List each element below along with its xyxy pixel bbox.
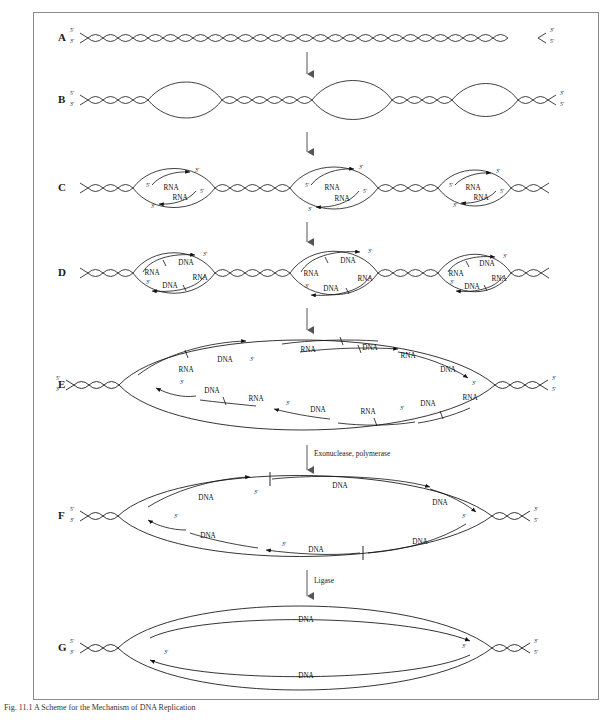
row-e-dna-bot-2: DNA [310,406,326,414]
row-a-left-3prime: 3' [69,38,75,44]
row-e-3prime-bot-3: 3' [399,405,405,411]
row-g-dna-top: DNA [298,616,314,624]
row-e-dna-top-2: DNA [362,344,378,352]
row-f-3prime-top-2: 3' [461,513,467,519]
row-label-c: C [58,181,66,193]
row-c-3prime-1a: 3' [194,167,200,173]
row-c-5prime-1a: 5' [146,182,151,188]
row-e-dna-top-3: DNA [440,366,456,374]
row-a-right-3prime: 3' [549,27,555,33]
row-d-3prime-1a: 3' [202,251,208,257]
row-d-rna-label-2b: RNA [357,275,373,283]
row-a-right-5prime: 5' [550,38,555,44]
row-f-3prime-bot-1: 3' [173,513,179,519]
row-d-3prime-3b: 3' [449,279,455,285]
row-e-dna-bot-3: DNA [420,400,436,408]
row-label-d: D [58,266,66,278]
row-c-5prime-1b: 5' [200,188,205,194]
row-c-rna-label-2b: RNA [334,195,350,203]
row-b-right-3prime: 3' [559,90,565,96]
row-e-right-5prime: 5' [552,386,557,392]
row-g-right-5prime: 5' [534,649,539,655]
row-e-dna-bot-1: DNA [204,387,220,395]
row-label-b: B [58,93,66,105]
row-f-dna-bot-2: DNA [308,546,324,554]
row-f-right-3prime: 3' [533,506,539,512]
row-g-3prime-bot: 3' [163,649,169,655]
row-label-g: G [58,641,67,653]
row-d-3prime-1b: 3' [145,279,151,285]
dna-replication-diagram: 5' 3' 3' 5' 5' 3' 3' 5' [0,0,614,720]
row-e-3prime-top-1: 3' [249,356,255,362]
row-b-bubbles [80,81,556,120]
row-c-3prime-3a: 3' [495,168,501,174]
row-g-left-3prime: 3' [69,649,75,655]
row-e-rna-bot-1: RNA [248,395,264,403]
row-d-3prime-2b: 3' [304,283,310,289]
row-f-dna-top-2: DNA [332,482,348,490]
row-label-a: A [58,31,66,43]
row-d-rna-label-1a: RNA [144,269,160,277]
row-g-3prime-top: 3' [461,643,467,649]
row-f-top-fragments [148,472,476,512]
row-d-3prime-2a: 3' [367,248,373,254]
row-c-5prime-2a: 5' [305,182,310,188]
row-g-left-5prime: 5' [70,638,75,644]
row-d-dna-label-3a: DNA [479,260,495,268]
row-c-5prime-3b: 5' [500,188,505,194]
transition-label-ligase: Ligase [314,576,334,585]
figure-caption: Fig. 11.1 A Scheme for the Mechanism of … [4,703,610,712]
row-e-rna-top-3: RNA [400,352,416,360]
row-c-rna-label-3b: RNA [473,194,489,202]
row-c-3prime-2b: 3' [307,206,313,212]
row-e-rna-bot-2: RNA [360,408,376,416]
row-d-dna-label-2a: DNA [340,257,356,265]
row-f-right-5prime: 5' [534,517,539,523]
row-e-rna-bot-3: RNA [462,394,478,402]
row-b-left-5prime: 5' [70,90,75,96]
row-d-dna-label-1a: DNA [178,259,194,267]
row-c-3prime-1b: 3' [150,203,156,209]
row-f-left-5prime: 5' [70,506,75,512]
row-b-left-3prime: 3' [69,101,75,107]
row-d-rna-label-3a: RNA [448,270,464,278]
row-c-3prime-2a: 3' [358,164,364,170]
row-e-rna-top-2: RNA [300,346,316,354]
row-e-dna-top-1: DNA [217,356,233,364]
row-c-rna-label-1b: RNA [172,194,188,202]
row-d-rna-label-2a: RNA [303,270,319,278]
row-f-dna-top-3: DNA [432,499,448,507]
row-a-left-5prime: 5' [70,27,75,33]
row-b-right-5prime: 5' [560,101,565,107]
row-d-dna-label-3b: DNA [464,283,480,291]
row-c-3prime-3b: 3' [452,202,458,208]
row-c-rna-label-3a: RNA [465,184,481,192]
row-e-rna-top-1: RNA [178,366,194,374]
row-f-left-3prime: 3' [69,517,75,523]
row-d-dna-label-2b: DNA [323,285,339,293]
transition-label-exonuclease-polymerase: Exonuclease, polymerase [314,449,390,458]
row-e-right-3prime: 3' [551,375,557,381]
row-d-rna-label-3b: RNA [491,275,507,283]
row-c-rna-label-1a: RNA [163,184,179,192]
row-d-dna-label-1b: DNA [162,282,178,290]
row-label-e: E [58,378,66,390]
row-d-rna-label-1b: RNA [192,274,208,282]
row-g-right-3prime: 3' [533,638,539,644]
row-a-helix [80,33,546,43]
row-d-3prime-3a: 3' [502,253,508,259]
row-e-3prime-bot-2: 3' [285,400,291,406]
row-c-rna-label-2a: RNA [324,184,340,192]
row-e-3prime-bot-1: 3' [179,379,185,385]
row-f-3prime-top-1: 3' [253,489,259,495]
row-g-dna-bottom: DNA [298,672,314,680]
row-c-5prime-3a: 5' [449,182,454,188]
row-f-3prime-bot-2: 3' [281,541,287,547]
row-label-f: F [58,509,65,521]
row-f-dna-top-1: DNA [198,494,214,502]
row-f-dna-bot-3: DNA [412,538,428,546]
row-f-dna-bot-1: DNA [200,532,216,540]
row-c-5prime-2b: 5' [363,188,368,194]
row-e-3prime-top-2: 3' [471,380,477,386]
